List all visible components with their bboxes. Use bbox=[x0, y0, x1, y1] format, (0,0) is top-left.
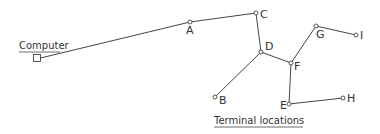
terminal-label-c: C bbox=[260, 8, 268, 21]
terminal-locations-caption: Terminal locations bbox=[213, 115, 304, 126]
terminal-label-d: D bbox=[265, 40, 273, 53]
nodes: ACDBFGIEH bbox=[186, 8, 363, 112]
network-diagram: ACDBFGIEH Computer Terminal locations bbox=[0, 0, 380, 134]
terminal-node-b bbox=[213, 95, 217, 99]
computer-label: Computer bbox=[19, 40, 70, 51]
terminal-node-d bbox=[259, 50, 263, 54]
terminal-node-c bbox=[254, 11, 258, 15]
terminal-label-h: H bbox=[347, 92, 355, 105]
edge-f-e bbox=[289, 63, 291, 104]
edge-e-h bbox=[289, 98, 343, 104]
edge-a-c bbox=[190, 13, 256, 22]
caption-group: Terminal locations bbox=[213, 115, 304, 127]
terminal-label-a: A bbox=[186, 24, 194, 37]
computer-group: Computer bbox=[19, 40, 70, 62]
terminal-label-i: I bbox=[360, 29, 363, 42]
terminal-label-f: F bbox=[294, 60, 300, 73]
computer-icon bbox=[34, 55, 41, 62]
terminal-node-i bbox=[354, 33, 358, 37]
edge-f-g bbox=[291, 26, 316, 63]
edge-d-b bbox=[215, 52, 261, 97]
terminal-node-f bbox=[289, 61, 293, 65]
edge-d-f bbox=[261, 52, 291, 63]
terminal-label-b: B bbox=[219, 94, 227, 107]
terminal-node-e bbox=[287, 102, 291, 106]
terminal-node-h bbox=[341, 96, 345, 100]
terminal-label-g: G bbox=[316, 28, 325, 41]
edges bbox=[41, 13, 357, 104]
terminal-label-e: E bbox=[280, 99, 287, 112]
